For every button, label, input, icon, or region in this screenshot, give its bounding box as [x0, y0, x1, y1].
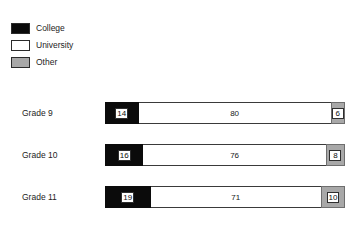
value-label-other: 6	[332, 108, 344, 119]
category-label-grade-9: Grade 9	[22, 96, 96, 130]
value-label-university: 71	[231, 193, 240, 202]
legend-swatch-other-icon	[11, 57, 30, 68]
bar-row: Grade 10 16 76 8	[0, 138, 356, 172]
category-label-grade-10: Grade 10	[22, 138, 96, 172]
legend-item-college: College	[11, 21, 121, 36]
legend-item-university: University	[11, 38, 121, 53]
bar-segment-university: 80	[139, 102, 331, 124]
plot-area: Grade 9 14 80 6 Grade 10 16	[0, 96, 356, 226]
legend-label-university: University	[36, 40, 73, 51]
value-label-other: 8	[329, 150, 341, 161]
bar-segment-other: 8	[326, 144, 345, 166]
bar-segment-other: 6	[331, 102, 345, 124]
bar-row: Grade 9 14 80 6	[0, 96, 356, 130]
category-label-grade-11: Grade 11	[22, 180, 96, 214]
bar-segment-university: 71	[151, 186, 321, 208]
bar-segment-college: 19	[105, 186, 151, 208]
legend-label-college: College	[36, 23, 65, 34]
value-label-university: 76	[230, 151, 239, 160]
bar-track-grade-9: 14 80 6	[105, 102, 345, 124]
bar-segment-college: 14	[105, 102, 139, 124]
value-label-college: 14	[115, 108, 128, 119]
bar-track-grade-11: 19 71 10	[105, 186, 345, 208]
bar-segment-other: 10	[321, 186, 345, 208]
bar-segment-college: 16	[105, 144, 143, 166]
value-label-university: 80	[230, 109, 239, 118]
value-label-college: 19	[121, 192, 134, 203]
value-label-college: 16	[118, 150, 131, 161]
stacked-bar-chart: College University Other Grade 9 14 80 6	[0, 0, 356, 248]
bar-track-grade-10: 16 76 8	[105, 144, 345, 166]
legend-item-other: Other	[11, 55, 121, 70]
bar-segment-university: 76	[143, 144, 325, 166]
legend-swatch-college-icon	[11, 23, 30, 34]
legend-swatch-university-icon	[11, 40, 30, 51]
legend-label-other: Other	[36, 57, 57, 68]
chart-legend: College University Other	[11, 21, 121, 72]
bar-row: Grade 11 19 71 10	[0, 180, 356, 214]
value-label-other: 10	[327, 192, 340, 203]
